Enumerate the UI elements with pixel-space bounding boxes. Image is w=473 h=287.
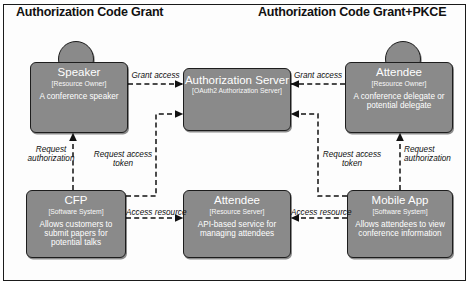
node-attendee-owner-type: [Resource Owner]: [372, 80, 427, 88]
node-attendee-resource-server[interactable]: Attendee [Resource Server] API-based ser…: [183, 190, 291, 258]
edge-label-grant-access-left: Grant access: [128, 71, 183, 80]
node-attendee-api-description: API-based service for managing attendees: [184, 220, 290, 239]
node-authorization-server[interactable]: Authorization Server [OAuth2 Authorizati…: [183, 68, 291, 131]
node-mobile-app[interactable]: Mobile App [Software System] Allows atte…: [347, 190, 453, 258]
node-attendee-resource-owner[interactable]: Attendee [Resource Owner] A conference d…: [345, 62, 453, 133]
node-attendee-api-name: Attendee: [214, 195, 260, 207]
edge-label-request-authorization-right: Request authorization: [404, 145, 466, 164]
edge-label-access-resource-left: Access resource: [126, 208, 183, 217]
node-cfp[interactable]: CFP [Software System] Allows customers t…: [26, 190, 126, 258]
node-cfp-name: CFP: [65, 195, 88, 207]
node-mobile-app-type: [Software System]: [372, 208, 427, 216]
node-mobile-app-description: Allows attendees to view conference info…: [348, 220, 452, 239]
node-speaker-name: Speaker: [58, 67, 101, 79]
node-attendee-api-type: [Resource Server]: [210, 208, 265, 216]
node-authorization-server-name: Authorization Server: [185, 74, 289, 86]
node-authorization-server-type: [OAuth2 Authorization Server]: [192, 87, 282, 95]
node-cfp-description: Allows customers to submit papers for po…: [27, 220, 125, 248]
title-authorization-code-grant-pkce: Authorization Code Grant+PKCE: [258, 5, 446, 19]
edge-label-access-resource-right: Access resource: [291, 208, 347, 217]
node-speaker-description: A conference speaker: [35, 92, 122, 101]
node-mobile-app-name: Mobile App: [372, 195, 429, 207]
edge-label-grant-access-right: Grant access: [291, 71, 345, 80]
node-cfp-type: [Software System]: [48, 208, 103, 216]
edge-label-request-access-token-right: Request access token: [320, 150, 384, 169]
diagram-canvas: Authorization Code Grant Authorization C…: [0, 0, 473, 287]
title-authorization-code-grant: Authorization Code Grant: [16, 5, 163, 19]
node-speaker-type: [Resource Owner]: [52, 80, 107, 88]
edge-label-request-access-token-left: Request access token: [92, 150, 154, 169]
edge-label-request-authorization-left: Request authorization: [20, 145, 82, 164]
node-speaker[interactable]: Speaker [Resource Owner] A conference sp…: [30, 62, 128, 133]
node-attendee-owner-description: A conference delegate or potential deleg…: [346, 92, 452, 111]
node-attendee-owner-name: Attendee: [376, 67, 422, 79]
